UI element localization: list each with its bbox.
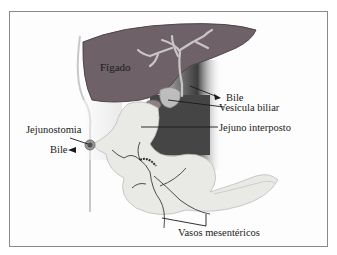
label-gallbladder: Vesícula biliar bbox=[219, 103, 279, 114]
label-liver: Fígado bbox=[100, 62, 131, 73]
bile-arrow-left bbox=[68, 147, 76, 153]
label-jejunostomy: Jejunostomia bbox=[26, 125, 81, 136]
label-mesenteric-vessels: Vasos mesentéricos bbox=[178, 228, 260, 239]
label-bile-left: Bile bbox=[50, 145, 68, 156]
label-interposed-jejunum: Jejuno interposto bbox=[219, 123, 291, 134]
